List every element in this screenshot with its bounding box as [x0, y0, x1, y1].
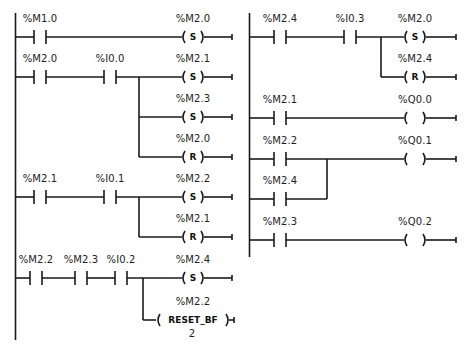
coil-label: %M2.0	[176, 133, 211, 145]
coil-label: %M2.4	[176, 254, 211, 266]
coil-label: %M2.1	[176, 53, 211, 65]
contact-label: %I0.0	[96, 53, 125, 65]
contact-label: %I0.1	[96, 173, 125, 185]
contact-label: %M2.3	[64, 254, 99, 266]
parallel-contact-label: %M2.4	[263, 175, 298, 187]
rung-6	[250, 111, 457, 125]
contact-label: %M2.1	[23, 173, 58, 185]
contact-label: %M2.2	[19, 254, 54, 266]
reset-coil-symbol: R	[189, 152, 198, 162]
coil-label: %M2.1	[176, 213, 211, 225]
rung-8	[250, 233, 457, 247]
coil-label: %Q0.0	[398, 94, 432, 106]
coil-label: %Q0.2	[398, 216, 432, 228]
contact-label: %M1.0	[23, 13, 58, 25]
coil-label: %M2.0	[398, 13, 433, 25]
coil-label: %M2.4	[398, 53, 433, 65]
coil-label: %M2.2	[176, 296, 211, 308]
coil-label: %M2.0	[176, 13, 211, 25]
set-coil-symbol: S	[189, 273, 197, 283]
reset-bf-coil-symbol: RESET_BF	[167, 315, 218, 325]
set-coil-symbol: S	[411, 32, 419, 42]
contact-label: %M2.0	[23, 53, 58, 65]
rung-1	[16, 30, 233, 44]
contact-label: %M2.2	[263, 135, 298, 147]
set-coil-symbol: S	[189, 112, 197, 122]
coil-label: %M2.2	[176, 173, 211, 185]
contact-label: %I0.2	[107, 254, 136, 266]
reset-bf-count: 2	[189, 328, 195, 340]
contact-label: %M2.1	[263, 94, 298, 106]
reset-coil-symbol: R	[189, 232, 198, 242]
contact-label: %I0.3	[336, 13, 365, 25]
contact-label: %M2.3	[263, 216, 298, 228]
set-coil-symbol: S	[189, 72, 197, 82]
coil-label: %Q0.1	[398, 135, 432, 147]
set-coil-symbol: S	[189, 32, 197, 42]
rung-2	[16, 70, 233, 163]
reset-coil-symbol: R	[411, 72, 420, 82]
contact-label: %M2.4	[263, 13, 298, 25]
set-coil-symbol: S	[189, 192, 197, 202]
coil-label: %M2.3	[176, 93, 211, 105]
